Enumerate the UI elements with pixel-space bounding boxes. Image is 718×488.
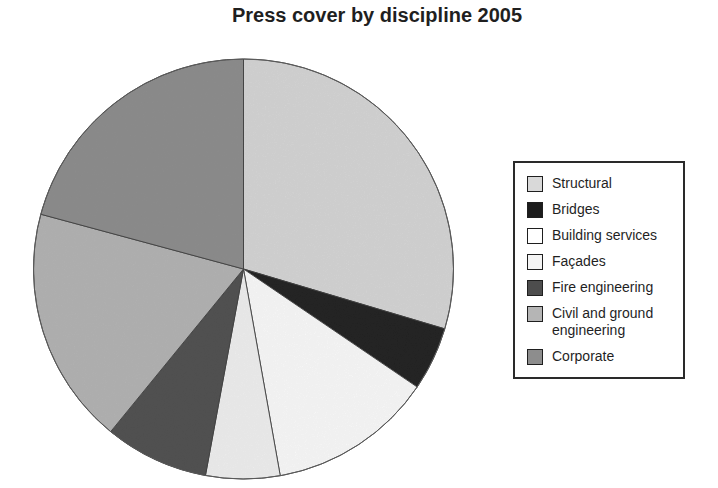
legend-item: Building services <box>527 227 675 244</box>
legend-items: StructuralBridgesBuilding servicesFaçade… <box>527 175 675 365</box>
legend-item: Fire engineering <box>527 279 675 296</box>
legend-label: Structural <box>552 175 612 192</box>
legend-swatch <box>527 349 543 365</box>
legend-label: Building services <box>552 227 657 244</box>
legend-label: Bridges <box>552 201 599 218</box>
legend-item: Bridges <box>527 201 675 218</box>
figure: Press cover by discipline 2005 Structura… <box>0 0 718 488</box>
legend-item: Corporate <box>527 348 675 365</box>
scan-grain-overlay <box>33 58 455 480</box>
legend-swatch <box>527 306 543 322</box>
legend-item: Structural <box>527 175 675 192</box>
legend-swatch <box>527 176 543 192</box>
legend-swatch <box>527 254 543 270</box>
legend-label: Façades <box>552 253 606 270</box>
legend-item: Civil and ground engineering <box>527 305 675 339</box>
legend-swatch <box>527 202 543 218</box>
legend: StructuralBridgesBuilding servicesFaçade… <box>513 161 685 379</box>
legend-swatch <box>527 280 543 296</box>
legend-label: Corporate <box>552 348 614 365</box>
legend-item: Façades <box>527 253 675 270</box>
legend-label: Civil and ground engineering <box>552 305 670 339</box>
legend-label: Fire engineering <box>552 279 653 296</box>
legend-swatch <box>527 228 543 244</box>
